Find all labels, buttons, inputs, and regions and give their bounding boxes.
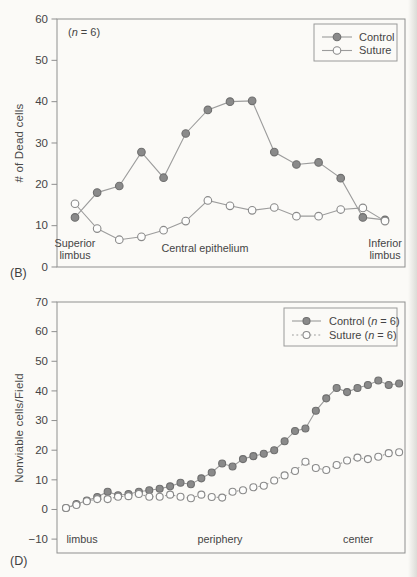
control-data-point-marker [359,214,367,222]
legend-marker-sample [333,47,341,55]
control-data-point-marker [177,479,184,486]
legend-label: Suture (n = 6) [329,329,397,341]
suture-data-point-marker [381,217,389,225]
control-data-point-marker [271,447,278,454]
suture-data-point-marker [63,504,70,511]
control-data-point-marker [182,130,190,138]
control-data-point-marker [337,174,345,182]
plot-area-d: −10010203040506070limbusperipherycenterC… [0,290,417,577]
y-tick-label: 10 [35,474,48,486]
suture-data-point-marker [239,487,246,494]
y-tick-label: 60 [35,13,48,25]
legend-label: Control (n = 6) [329,315,400,327]
suture-data-point-marker [204,197,212,205]
control-data-point-marker [270,148,278,156]
control-data-point-marker [167,483,174,490]
control-data-point-marker [302,425,309,432]
panel-label-d: (D) [10,554,27,568]
control-data-point-marker [229,463,236,470]
chart-panel-d: Nonviable cells/Field −10010203040506070… [0,290,417,577]
suture-data-point-marker [271,477,278,484]
y-tick-label: 0 [42,261,48,273]
y-tick-label: 40 [35,95,48,107]
control-data-point-marker [104,488,111,495]
x-region-label: limbus [66,533,98,545]
suture-data-point-marker [226,202,234,210]
control-data-point-marker [354,384,361,391]
y-tick-label: −10 [28,533,48,545]
y-tick-label: 30 [35,137,48,149]
suture-data-point-marker [182,217,190,225]
control-data-point-marker [219,460,226,467]
suture-data-point-marker [270,204,278,212]
legend-label: Suture [359,44,391,56]
control-data-point-marker [385,381,392,388]
control-data-point-marker [204,106,212,114]
control-data-point-marker [323,395,330,402]
control-data-point-marker [396,380,403,387]
control-data-point-marker [226,98,234,106]
legend-label: Control [359,31,394,43]
suture-data-point-marker [396,449,403,456]
suture-data-point-marker [219,494,226,501]
suture-data-point-marker [135,491,142,498]
chart-panel-b: # of Dead cells 0102030405060Superiorlim… [0,0,417,290]
y-tick-label: 70 [35,296,48,308]
suture-data-point-marker [160,226,168,234]
panel-label-b: (B) [10,266,27,280]
control-data-point-marker [115,182,123,190]
legend-marker-sample [303,332,310,339]
suture-data-point-marker [94,496,101,503]
legend-marker-sample [303,318,310,325]
suture-data-point-marker [333,462,340,469]
suture-data-point-marker [364,456,371,463]
control-data-point-marker [93,189,101,197]
control-data-point-marker [333,384,340,391]
control-data-point-marker [281,438,288,445]
suture-data-point-marker [229,488,236,495]
suture-data-point-marker [293,212,301,220]
suture-data-point-marker [248,207,256,215]
suture-data-point-marker [337,206,345,214]
suture-data-point-marker [138,233,146,241]
scanned-figure-page: # of Dead cells 0102030405060Superiorlim… [0,0,417,577]
y-tick-label: 50 [35,54,48,66]
x-region-label: Inferior [368,237,402,249]
suture-data-point-marker [359,204,367,212]
control-data-point-marker [239,456,246,463]
control-data-point-marker [375,377,382,384]
control-data-point-marker [248,97,256,105]
y-tick-label: 30 [35,414,48,426]
x-region-label: center [343,533,373,545]
suture-data-point-marker [73,502,80,509]
sample-size-annotation: (n = 6) [68,26,100,38]
control-data-point-marker [198,475,205,482]
plot-area-b: 0102030405060SuperiorlimbusCentral epith… [0,0,417,290]
suture-data-point-marker [281,472,288,479]
control-data-point-marker [160,174,168,182]
control-data-point-marker [71,214,79,222]
suture-data-point-marker [125,493,132,500]
control-data-point-marker [344,389,351,396]
control-data-point-marker [187,481,194,488]
x-region-label: Central epithelium [161,242,248,254]
suture-data-point-marker [115,493,122,500]
suture-data-point-marker [177,493,184,500]
control-data-point-marker [156,485,163,492]
suture-data-point-marker [385,450,392,457]
suture-data-point-marker [208,494,215,501]
suture-data-point-marker [187,495,194,502]
suture-data-point-marker [198,491,205,498]
y-tick-label: 40 [35,385,48,397]
suture-data-point-marker [354,454,361,461]
suture-data-point-marker [83,498,90,505]
suture-data-point-marker [292,467,299,474]
suture-data-point-marker [104,496,111,503]
y-tick-label: 0 [42,503,48,515]
x-region-label: limbus [59,249,91,261]
suture-data-point-marker [71,200,79,208]
suture-data-point-marker [375,453,382,460]
suture-data-point-marker [315,212,323,220]
control-data-point-marker [293,161,301,169]
suture-data-point-marker [250,484,257,491]
